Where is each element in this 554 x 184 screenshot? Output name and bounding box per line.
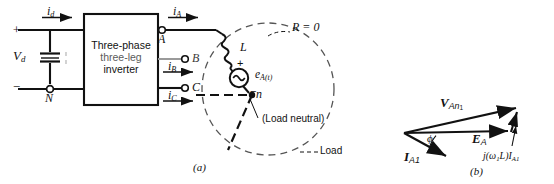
part-b-caption: (b) xyxy=(470,166,483,177)
dc-minus-sign: − xyxy=(12,80,21,93)
load-region-label: Load xyxy=(320,146,342,156)
load-neutral-note: (Load neutral) xyxy=(262,114,324,124)
load-neutral-node-label: n xyxy=(256,88,262,100)
inverter-label-line3: inverter xyxy=(88,64,154,75)
load-source-label: eA(t) xyxy=(255,69,272,82)
phasor-angle-label: ϕ xyxy=(427,133,433,144)
dc-voltage-label: Vd xyxy=(13,49,25,64)
current-c-label: iC xyxy=(168,89,177,103)
dc-input-section xyxy=(18,18,84,93)
phasor-voltage-label: VAn1 xyxy=(440,96,463,111)
load-inductance-label: L xyxy=(240,41,247,53)
diagram-vector-layer xyxy=(0,0,554,184)
current-a-label: iA xyxy=(173,5,181,19)
terminal-c-label: C xyxy=(192,81,200,93)
inverter-label-line2: three-leg xyxy=(88,52,154,63)
dc-neutral-node-label: N xyxy=(45,92,53,104)
phasor-reactance-drop-label: j(ω1L)IA1 xyxy=(483,151,519,163)
terminal-a-label: A xyxy=(158,33,165,45)
figure-inverter-and-phasor-diagram: + − Vd N id Three-phase three-leg invert… xyxy=(0,0,554,184)
dc-plus-sign: + xyxy=(12,23,21,36)
phasor-emf-label: EA xyxy=(472,132,487,147)
ac-output-terminals xyxy=(158,18,216,102)
current-b-label: iB xyxy=(168,60,176,74)
part-a-caption: (a) xyxy=(193,162,206,173)
inverter-label-line1: Three-phase xyxy=(88,40,154,51)
input-current-label: id xyxy=(47,5,54,19)
phasor-diagram xyxy=(404,108,517,156)
terminal-b-label: B xyxy=(192,52,199,64)
load-resistance-label: R = 0 xyxy=(292,21,319,33)
phasor-current-label: IA1 xyxy=(404,150,420,165)
source-plus-sign: + xyxy=(237,58,243,69)
